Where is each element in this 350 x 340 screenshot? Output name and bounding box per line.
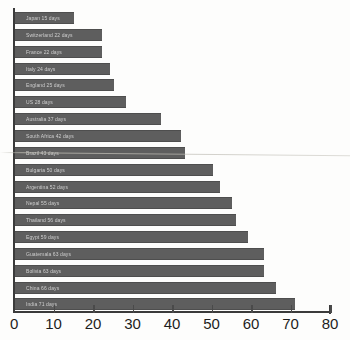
bar: England 25 days	[15, 79, 114, 91]
y-axis-line	[13, 8, 15, 313]
x-axis-tick	[251, 305, 253, 313]
x-axis-tick-label: 70	[282, 315, 298, 332]
bar: Australia 37 days	[15, 113, 161, 125]
x-axis-tick-label: 40	[164, 315, 180, 332]
x-axis-tick-label: 60	[243, 315, 259, 332]
bar-row: Brazil 43 days	[15, 147, 331, 157]
bar-row: Guatemala 63 days	[15, 248, 331, 258]
x-axis-tick-label: 50	[203, 315, 219, 332]
bar-label: Thailand 56 days	[26, 217, 66, 223]
bar: Bolivia 63 days	[15, 265, 264, 277]
bar-row: US 28 days	[15, 96, 331, 106]
x-axis-tick-label: 30	[124, 315, 140, 332]
bar: Italy 24 days	[15, 63, 110, 75]
bar-label: Brazil 43 days	[26, 150, 59, 156]
x-axis-tick	[93, 305, 95, 313]
bar-row: Italy 24 days	[15, 63, 331, 73]
bar: Nepal 55 days	[15, 197, 232, 209]
bar-row: South Africa 42 days	[15, 130, 331, 140]
x-axis-tick-label: 20	[85, 315, 101, 332]
bar-label: South Africa 42 days	[26, 133, 74, 139]
chart-page: Japan 15 daysSwitzerland 22 daysFrance 2…	[0, 0, 350, 340]
bar-label: England 25 days	[26, 82, 65, 88]
bar-label: China 66 days	[26, 285, 59, 291]
bar: India 71 days	[15, 298, 295, 310]
x-axis-tick	[212, 305, 214, 313]
bar-row: Thailand 56 days	[15, 214, 331, 224]
bar-row: Switzerland 22 days	[15, 29, 331, 39]
bar-row: China 66 days	[15, 282, 331, 292]
bar-label: India 71 days	[26, 301, 57, 307]
bar: Switzerland 22 days	[15, 29, 102, 41]
x-axis-tick	[133, 305, 135, 313]
bar: France 22 days	[15, 46, 102, 58]
bar-row: Egypt 59 days	[15, 231, 331, 241]
x-axis-tick-label: 80	[322, 315, 338, 332]
x-axis-tick	[172, 305, 174, 313]
bar-label: Bolivia 63 days	[26, 268, 61, 274]
bar-row: Nepal 55 days	[15, 197, 331, 207]
x-axis-tick-label: 10	[45, 315, 61, 332]
bar-row: Argentina 52 days	[15, 181, 331, 191]
bars-container: Japan 15 daysSwitzerland 22 daysFrance 2…	[15, 8, 335, 311]
bar: South Africa 42 days	[15, 130, 181, 142]
bar-chart: Japan 15 daysSwitzerland 22 daysFrance 2…	[0, 0, 350, 340]
x-axis-tick-label: 0	[10, 315, 18, 332]
bar-label: Argentina 52 days	[26, 184, 68, 190]
bar-row: Japan 15 days	[15, 12, 331, 22]
bar: Japan 15 days	[15, 12, 74, 24]
bar-row: Australia 37 days	[15, 113, 331, 123]
bar: US 28 days	[15, 96, 126, 108]
bar-row: France 22 days	[15, 46, 331, 56]
bar: China 66 days	[15, 282, 276, 294]
bar: Bulgaria 50 days	[15, 164, 213, 176]
bar-label: Switzerland 22 days	[26, 32, 73, 38]
bar: Argentina 52 days	[15, 181, 220, 193]
x-axis-tick	[291, 305, 293, 313]
bar-row: Bolivia 63 days	[15, 265, 331, 275]
bar: Guatemala 63 days	[15, 248, 264, 260]
bar-label: Nepal 55 days	[26, 200, 59, 206]
bar-label: Japan 15 days	[26, 15, 60, 21]
bar: Thailand 56 days	[15, 214, 236, 226]
bar-label: US 28 days	[26, 99, 53, 105]
bar-label: Egypt 59 days	[26, 234, 59, 240]
bar-label: Guatemala 63 days	[26, 251, 71, 257]
bar-row: England 25 days	[15, 79, 331, 89]
x-axis-tick	[330, 305, 332, 313]
bar-label: Bulgaria 50 days	[26, 167, 65, 173]
bar-row: Bulgaria 50 days	[15, 164, 331, 174]
bar-label: France 22 days	[26, 49, 62, 55]
bar-label: Australia 37 days	[26, 116, 66, 122]
bar: Egypt 59 days	[15, 231, 248, 243]
bar-label: Italy 24 days	[26, 66, 55, 72]
x-axis-tick	[54, 305, 56, 313]
bar: Brazil 43 days	[15, 147, 185, 159]
